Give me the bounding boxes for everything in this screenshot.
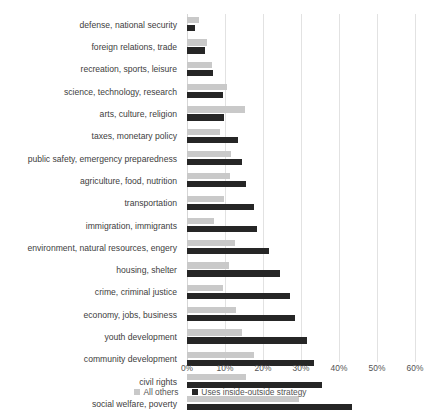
bar-rows <box>187 14 415 362</box>
bar-group <box>187 148 415 170</box>
x-tick-label: 60% <box>407 363 424 373</box>
bar-inside-outside <box>187 226 257 232</box>
bar-all-others <box>187 17 199 23</box>
bar-all-others <box>187 39 207 45</box>
category-label: youth development <box>104 333 177 342</box>
bar-all-others <box>187 218 214 224</box>
bar-all-others <box>187 129 220 135</box>
bar-inside-outside <box>187 293 290 299</box>
chart-legend: All othersUses inside-outside strategy <box>0 387 441 397</box>
bar-group <box>187 170 415 192</box>
bar-inside-outside <box>187 315 295 321</box>
bar-inside-outside <box>187 404 352 410</box>
bar-group <box>187 259 415 281</box>
bar-all-others <box>187 196 224 202</box>
category-label: civil rights <box>139 378 177 387</box>
category-label: environment, natural resources, engery <box>27 244 177 253</box>
category-label: arts, culture, religion <box>100 110 177 119</box>
bar-all-others <box>187 151 231 157</box>
gridline-60% <box>415 14 416 362</box>
category-label-row: public safety, emergency preparedness <box>0 148 182 170</box>
category-label: taxes, monetary policy <box>92 132 178 141</box>
category-label: public safety, emergency preparedness <box>28 155 177 164</box>
category-label: science, technology, research <box>64 88 177 97</box>
legend-label: All others <box>143 387 178 397</box>
plot-area <box>187 14 415 362</box>
bar-all-others <box>187 240 235 246</box>
bar-all-others <box>187 352 254 358</box>
bar-all-others <box>187 62 212 68</box>
category-label: immigration, immigrants <box>86 222 177 231</box>
bar-inside-outside <box>187 159 242 165</box>
bar-all-others <box>187 285 223 291</box>
legend-item[interactable]: All others <box>134 387 178 397</box>
category-label: agriculture, food, nutrition <box>80 177 177 186</box>
bar-group <box>187 215 415 237</box>
bar-group <box>187 36 415 58</box>
value-axis-labels: 0%10%20%30%40%50%60% <box>187 363 415 379</box>
bar-inside-outside <box>187 204 254 210</box>
bar-all-others <box>187 396 299 402</box>
category-label-row: arts, culture, religion <box>0 103 182 125</box>
category-label: foreign relations, trade <box>91 43 177 52</box>
bar-group <box>187 192 415 214</box>
bar-all-others <box>187 307 236 313</box>
bar-all-others <box>187 106 245 112</box>
x-tick-label: 50% <box>369 363 386 373</box>
bar-all-others <box>187 262 229 268</box>
category-label-row: foreign relations, trade <box>0 36 182 58</box>
category-label-row: science, technology, research <box>0 81 182 103</box>
x-tick-label: 0% <box>181 363 193 373</box>
legend-item[interactable]: Uses inside-outside strategy <box>192 387 306 397</box>
bar-inside-outside <box>187 92 223 98</box>
category-label: social welfare, poverty <box>92 400 177 409</box>
category-label-row: youth development <box>0 326 182 348</box>
bar-chart: defense, national securityforeign relati… <box>0 0 441 416</box>
bar-all-others <box>187 84 227 90</box>
category-label-row: crime, criminal justice <box>0 282 182 304</box>
category-label-row: defense, national security <box>0 14 182 36</box>
category-label: economy, jobs, business <box>84 311 177 320</box>
category-label: recreation, sports, leisure <box>81 65 177 74</box>
bar-inside-outside <box>187 337 307 343</box>
x-tick-label: 30% <box>293 363 310 373</box>
bar-inside-outside <box>187 270 280 276</box>
bar-inside-outside <box>187 114 224 120</box>
bar-group <box>187 14 415 36</box>
bar-group <box>187 103 415 125</box>
category-axis-labels: defense, national securityforeign relati… <box>0 14 182 362</box>
category-label-row: immigration, immigrants <box>0 215 182 237</box>
category-label: housing, shelter <box>116 266 177 275</box>
bar-all-others <box>187 329 242 335</box>
category-label: defense, national security <box>80 21 177 30</box>
bar-inside-outside <box>187 248 269 254</box>
bar-group <box>187 125 415 147</box>
category-label: transportation <box>124 199 177 208</box>
bar-group <box>187 326 415 348</box>
category-label-row: community development <box>0 348 182 370</box>
x-tick-label: 10% <box>217 363 234 373</box>
category-label: crime, criminal justice <box>95 288 177 297</box>
bar-inside-outside <box>187 25 195 31</box>
bar-group <box>187 304 415 326</box>
bar-group <box>187 237 415 259</box>
bar-group <box>187 59 415 81</box>
category-label: community development <box>84 355 177 364</box>
category-label-row: transportation <box>0 192 182 214</box>
category-label-row: taxes, monetary policy <box>0 125 182 147</box>
legend-swatch-icon <box>134 389 140 395</box>
bar-inside-outside <box>187 70 213 76</box>
bar-inside-outside <box>187 137 238 143</box>
category-label-row: recreation, sports, leisure <box>0 59 182 81</box>
category-label-row: environment, natural resources, engery <box>0 237 182 259</box>
category-label-row: housing, shelter <box>0 259 182 281</box>
x-tick-label: 20% <box>255 363 272 373</box>
legend-label: Uses inside-outside strategy <box>201 387 306 397</box>
bar-inside-outside <box>187 47 205 53</box>
bar-group <box>187 81 415 103</box>
bar-inside-outside <box>187 181 246 187</box>
category-label-row: economy, jobs, business <box>0 304 182 326</box>
legend-swatch-icon <box>192 389 198 395</box>
x-tick-label: 40% <box>331 363 348 373</box>
bar-group <box>187 282 415 304</box>
